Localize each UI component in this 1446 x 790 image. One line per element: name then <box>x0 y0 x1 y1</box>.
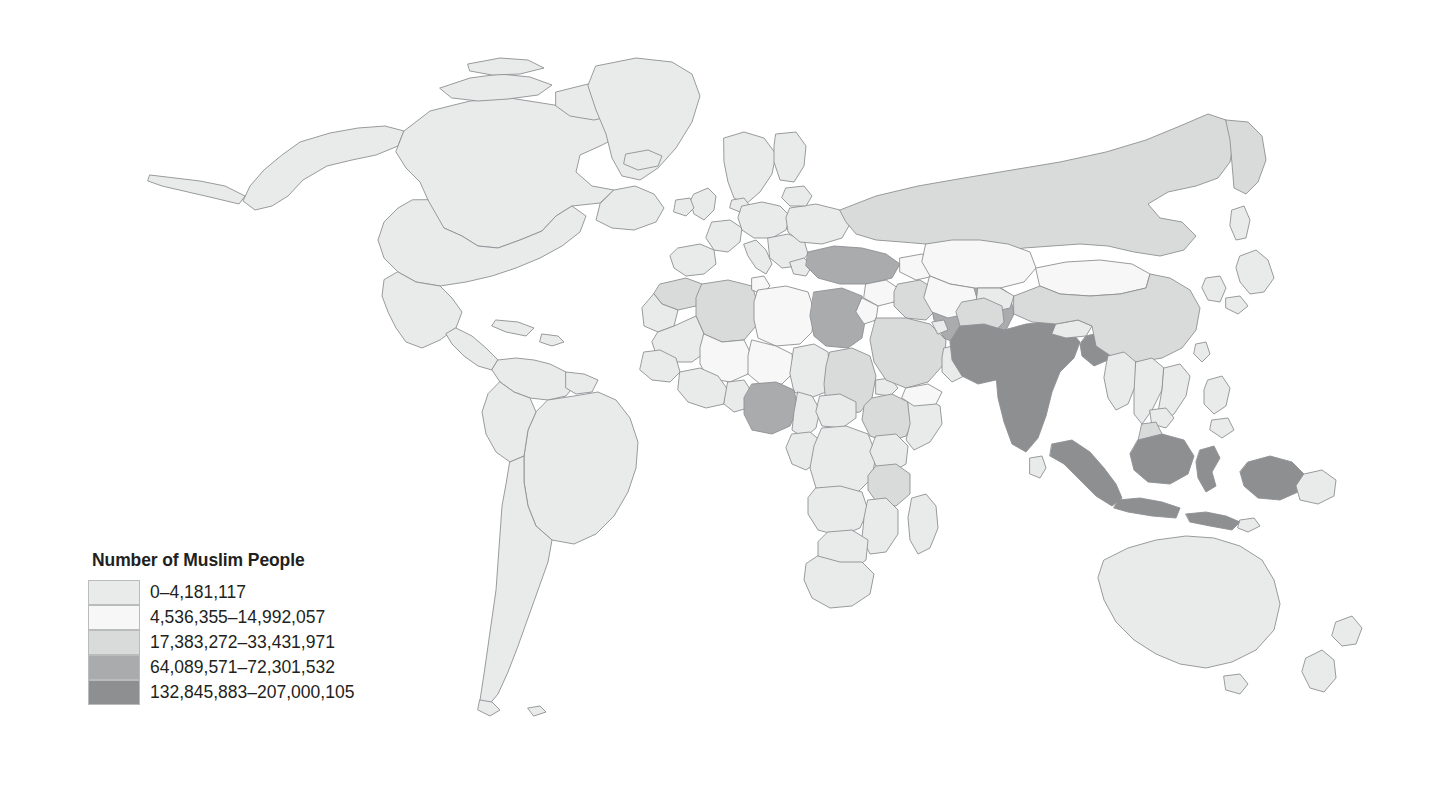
country-niger <box>748 340 794 384</box>
legend-swatch-3 <box>88 630 140 655</box>
country-philippines-south <box>1210 418 1234 438</box>
country-brazil <box>524 392 638 544</box>
country-south-africa <box>804 556 874 608</box>
country-japan <box>1236 250 1274 294</box>
region-north-america <box>148 58 700 370</box>
country-indonesia-borneo <box>1130 434 1194 484</box>
country-kamchatka <box>1226 120 1266 194</box>
legend-swatch-4 <box>88 655 140 680</box>
legend-row: 4,536,355–14,992,057 <box>88 605 418 630</box>
country-turkey <box>806 246 900 284</box>
country-hispaniola <box>540 334 564 346</box>
map-legend: Number of Muslim People 0–4,181,117 4,53… <box>88 550 418 705</box>
country-central-america <box>446 328 498 370</box>
legend-label-1: 0–4,181,117 <box>150 584 246 602</box>
country-indonesia-sulawesi <box>1196 446 1220 492</box>
country-cuba <box>492 320 534 336</box>
country-sri-lanka <box>1030 456 1046 478</box>
legend-row: 132,845,883–207,000,105 <box>88 680 418 705</box>
country-nigeria <box>744 382 798 434</box>
legend-title: Number of Muslim People <box>92 550 418 571</box>
legend-swatch-2 <box>88 605 140 630</box>
region-oceania <box>1050 422 1362 694</box>
legend-row: 64,089,571–72,301,532 <box>88 655 418 680</box>
country-taiwan <box>1194 342 1210 362</box>
country-somalia <box>906 398 942 450</box>
country-guyanas <box>566 372 598 394</box>
country-indonesia-java <box>1114 498 1180 518</box>
country-myanmar <box>1104 352 1136 410</box>
country-sakhalin <box>1230 206 1250 240</box>
country-germany-poland <box>738 202 790 238</box>
country-tierra-del-fuego <box>478 700 500 716</box>
region-south-america <box>478 358 638 716</box>
country-saudi-arabia <box>870 318 946 388</box>
country-russia <box>840 114 1234 256</box>
country-spain-portugal <box>670 244 716 276</box>
country-japan-south <box>1226 296 1248 314</box>
country-new-zealand-south <box>1302 650 1336 692</box>
country-libya <box>754 286 814 346</box>
country-india <box>996 322 1080 452</box>
legend-row: 17,383,272–33,431,971 <box>88 630 418 655</box>
country-finland <box>774 132 806 182</box>
country-philippines <box>1204 376 1230 414</box>
country-indonesia-papua <box>1240 456 1304 500</box>
country-australia <box>1098 536 1280 668</box>
country-arctic-islands <box>440 74 552 101</box>
legend-rows: 0–4,181,117 4,536,355–14,992,057 17,383,… <box>88 580 418 705</box>
legend-label-5: 132,845,883–207,000,105 <box>150 684 354 702</box>
country-chad <box>790 344 830 398</box>
country-car <box>816 394 856 428</box>
legend-label-3: 17,383,272–33,431,971 <box>150 634 335 652</box>
country-baltics <box>782 186 812 206</box>
country-algeria <box>696 280 758 342</box>
country-alaska <box>243 126 404 210</box>
country-timor <box>1238 518 1260 532</box>
legend-swatch-5 <box>88 680 140 705</box>
country-norway-sweden <box>724 132 776 204</box>
country-uk <box>690 188 716 220</box>
country-lesser-sunda <box>1186 512 1240 530</box>
legend-swatch-1 <box>88 580 140 605</box>
country-indonesia-sumatra <box>1050 440 1122 506</box>
country-france <box>706 220 742 252</box>
country-angola-zambia <box>808 486 868 536</box>
country-ireland <box>674 198 694 216</box>
legend-label-2: 4,536,355–14,992,057 <box>150 609 325 627</box>
country-italy <box>744 240 772 274</box>
country-cameroon <box>792 392 820 438</box>
country-korea <box>1202 276 1226 302</box>
country-madagascar <box>908 494 938 554</box>
country-falklands <box>528 706 546 716</box>
world-choropleth-figure: Number of Muslim People 0–4,181,117 4,53… <box>0 0 1446 790</box>
country-egypt <box>810 288 866 348</box>
country-aleutians <box>148 175 245 204</box>
country-tasmania <box>1224 674 1248 694</box>
country-new-zealand-north <box>1332 616 1362 646</box>
legend-label-4: 64,089,571–72,301,532 <box>150 659 335 677</box>
country-arctic-islands-2 <box>468 58 544 75</box>
legend-row: 0–4,181,117 <box>88 580 418 605</box>
